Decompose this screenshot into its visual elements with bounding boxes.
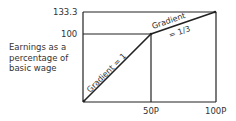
x-tick-100p: 100P	[205, 106, 226, 117]
x-tick-50p: 50P	[143, 106, 159, 117]
y-axis-label: Earnings as a percentage of basic wage	[9, 42, 68, 74]
gradient-1-label: Gradient = 1	[85, 51, 128, 94]
ylabel-line-3: basic wage	[9, 63, 68, 74]
earnings-curve	[84, 12, 215, 101]
ylabel-line-2: percentage of	[9, 53, 68, 64]
y-tick-100: 100	[61, 29, 77, 40]
ylabel-line-1: Earnings as a	[9, 42, 68, 53]
y-tick-133: 133.3	[53, 7, 77, 18]
